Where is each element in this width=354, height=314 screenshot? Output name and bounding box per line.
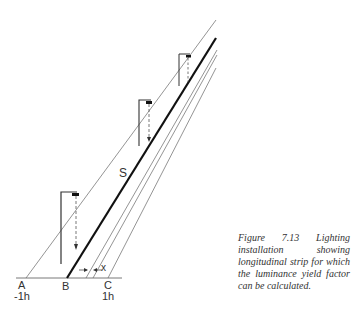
road-edge-B <box>67 38 216 278</box>
line-A <box>26 20 216 278</box>
label-x: x <box>101 262 106 273</box>
label-C-sub: 1h <box>102 291 114 302</box>
luminaire-1 <box>61 192 79 264</box>
label-S: S <box>119 168 127 179</box>
figure-caption: Figure 7.13 Lighting installation showin… <box>238 232 350 292</box>
luminaire-2 <box>139 100 152 146</box>
strip-line-2 <box>93 55 217 278</box>
strip-line-1 <box>86 50 217 278</box>
label-A-sub: -1h <box>14 291 30 302</box>
label-B: B <box>62 281 69 292</box>
